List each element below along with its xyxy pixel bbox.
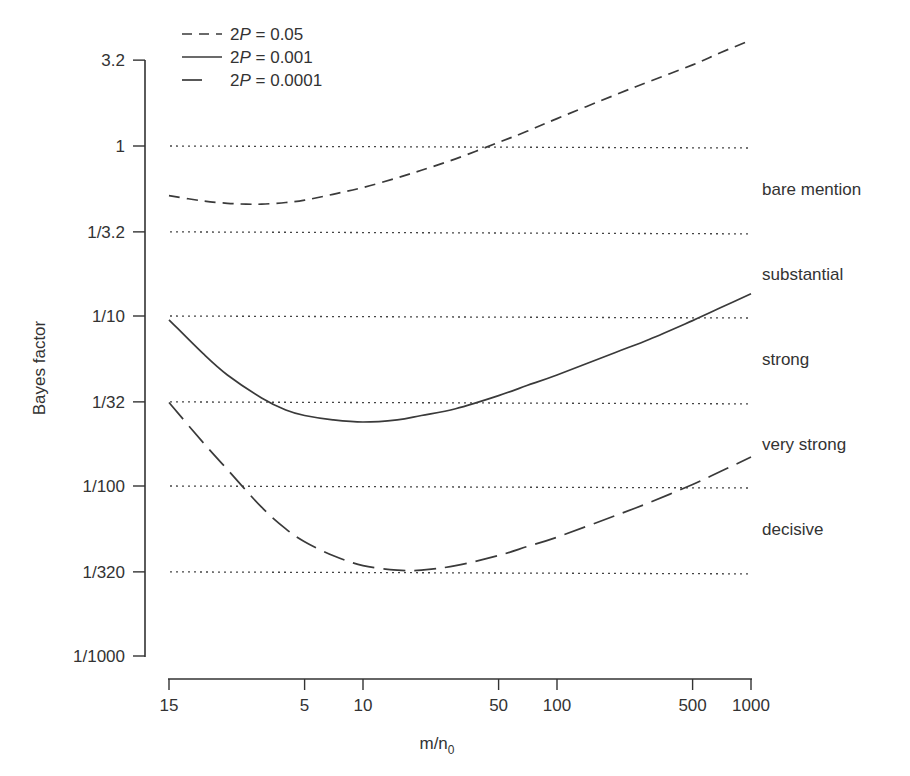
y-tick-label: 1 <box>116 137 125 156</box>
reference-lines <box>170 146 752 574</box>
series-line-solid <box>169 294 751 422</box>
y-axis-title: Bayes factor <box>30 320 49 415</box>
reference-line <box>170 146 752 148</box>
evidence-category-label: very strong <box>762 435 846 454</box>
y-tick-label: 1/32 <box>92 393 125 412</box>
x-axis-title: m/n0 <box>419 734 454 757</box>
evidence-category-labels: bare mentionsubstantialstrongvery strong… <box>762 180 861 539</box>
reference-line <box>170 232 752 234</box>
x-tick-label: 15 <box>160 696 179 715</box>
y-tick-label: 1/10 <box>92 307 125 326</box>
legend-label: 2P = 0.0001 <box>230 71 322 90</box>
reference-line <box>170 572 752 574</box>
reference-line <box>170 316 752 318</box>
x-tick-label: 5 <box>300 696 309 715</box>
evidence-category-label: substantial <box>762 265 843 284</box>
y-tick-label: 1/3.2 <box>87 223 125 242</box>
legend: 2P = 0.052P = 0.0012P = 0.0001 <box>182 25 322 90</box>
legend-label: 2P = 0.05 <box>230 25 303 44</box>
legend-label: 2P = 0.001 <box>230 48 313 67</box>
y-tick-label: 1/1000 <box>73 647 125 666</box>
bayes-factor-chart: 3.211/3.21/101/321/1001/3201/1000 155105… <box>0 0 910 776</box>
data-series <box>169 40 751 571</box>
x-axis: 15510501005001000 <box>160 679 770 715</box>
evidence-category-label: bare mention <box>762 180 861 199</box>
x-tick-label: 1000 <box>732 696 770 715</box>
x-tick-label: 10 <box>354 696 373 715</box>
evidence-category-label: strong <box>762 350 809 369</box>
y-tick-label: 3.2 <box>101 51 125 70</box>
reference-line <box>170 486 752 488</box>
x-tick-label: 500 <box>678 696 706 715</box>
reference-line <box>170 402 752 404</box>
y-tick-label: 1/100 <box>82 477 125 496</box>
y-tick-label: 1/320 <box>82 563 125 582</box>
x-tick-label: 100 <box>543 696 571 715</box>
evidence-category-label: decisive <box>762 520 823 539</box>
y-axis: 3.211/3.21/101/321/1001/3201/1000 <box>73 51 145 666</box>
x-tick-label: 50 <box>489 696 508 715</box>
series-line-long-dash <box>169 403 751 571</box>
